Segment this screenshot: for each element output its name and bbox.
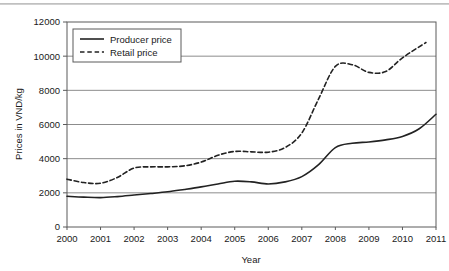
y-tick-label: 12000 xyxy=(34,16,60,27)
series-line-producer-price xyxy=(67,114,436,197)
x-tick-label: 2006 xyxy=(258,233,279,244)
x-axis-tick-labels: 2000200120022003200420052006200720082009… xyxy=(56,233,446,244)
x-tick-label: 2002 xyxy=(124,233,145,244)
y-tick-label: 4000 xyxy=(39,153,60,164)
x-tick-label: 2009 xyxy=(358,233,379,244)
series-line-retail-price xyxy=(67,43,426,184)
y-tick-label: 8000 xyxy=(39,85,60,96)
y-tick-label: 0 xyxy=(55,221,60,232)
data-series xyxy=(67,43,436,198)
legend-label-retail-price: Retail price xyxy=(110,47,158,58)
y-tick-label: 2000 xyxy=(39,187,60,198)
x-tick-label: 2000 xyxy=(56,233,77,244)
y-axis-title: Prices in VND/kg xyxy=(13,88,24,160)
line-chart: 020004000600080001000012000 200020012002… xyxy=(0,0,449,271)
x-tick-label: 2001 xyxy=(90,233,111,244)
x-tick-label: 2005 xyxy=(224,233,245,244)
x-tick-label: 2007 xyxy=(291,233,312,244)
legend-label-producer-price: Producer price xyxy=(110,34,172,45)
y-axis-tick-labels: 020004000600080001000012000 xyxy=(34,16,60,232)
y-tick-label: 6000 xyxy=(39,119,60,130)
x-tick-label: 2010 xyxy=(392,233,413,244)
legend: Producer price Retail price xyxy=(73,29,181,62)
y-tick-label: 10000 xyxy=(34,51,60,62)
x-axis-title: Year xyxy=(241,254,260,265)
x-tick-label: 2003 xyxy=(157,233,178,244)
x-tick-label: 2008 xyxy=(325,233,346,244)
x-tick-label: 2011 xyxy=(426,233,446,244)
x-tick-label: 2004 xyxy=(191,233,212,244)
gridlines xyxy=(67,56,436,193)
chart-figure: 020004000600080001000012000 200020012002… xyxy=(0,0,449,271)
